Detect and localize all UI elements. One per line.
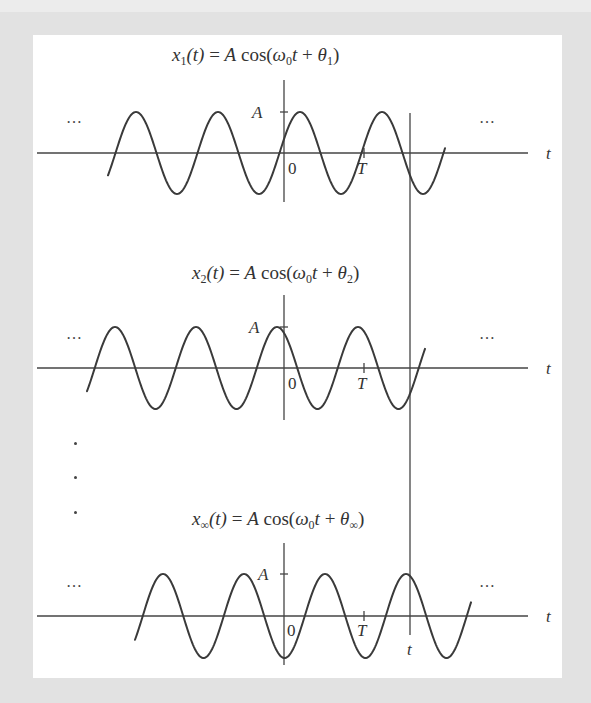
title-omega: ω bbox=[293, 262, 306, 283]
period-label-3: T bbox=[357, 622, 366, 639]
title-close: ) bbox=[333, 44, 339, 65]
title-amp: A bbox=[247, 508, 259, 529]
ellipsis-right-1: … bbox=[479, 110, 496, 126]
title-eq: = bbox=[227, 508, 247, 529]
vertical-ellipsis-dot bbox=[74, 476, 77, 479]
ellipsis-right-2: … bbox=[479, 326, 496, 342]
title-theta: θ bbox=[338, 262, 347, 283]
origin-label-2: 0 bbox=[288, 375, 297, 392]
title-amp: A bbox=[245, 262, 257, 283]
title-plus: + bbox=[317, 262, 337, 283]
title-x1: x1(t) = A cos(ω0t + θ1) bbox=[172, 44, 339, 66]
origin-label-1: 0 bbox=[288, 160, 297, 177]
title-x2: x2(t) = A cos(ω0t + θ2) bbox=[192, 262, 359, 284]
amplitude-label-1: A bbox=[252, 104, 262, 121]
title-omega: ω bbox=[295, 508, 308, 529]
title-arg: (t) bbox=[209, 508, 227, 529]
period-label-1: T bbox=[357, 160, 366, 177]
title-arg: (t) bbox=[186, 44, 204, 65]
ellipsis-left-1: … bbox=[66, 110, 83, 126]
title-func: cos( bbox=[236, 44, 272, 65]
ellipsis-left-3: … bbox=[66, 574, 83, 590]
ellipsis-right-3: … bbox=[479, 574, 496, 590]
title-amp: A bbox=[225, 44, 237, 65]
title-arg: (t) bbox=[206, 262, 224, 283]
vertical-ellipsis-dot bbox=[74, 511, 77, 514]
ellipsis-left-2: … bbox=[66, 326, 83, 342]
amplitude-label-3: A bbox=[258, 566, 268, 583]
axis-label-2: t bbox=[546, 360, 551, 377]
title-func: cos( bbox=[256, 262, 292, 283]
title-theta-sub: ∞ bbox=[349, 518, 358, 532]
title-eq: = bbox=[224, 262, 244, 283]
title-x-infinity: x∞(t) = A cos(ω0t + θ∞) bbox=[192, 508, 364, 530]
period-label-2: T bbox=[357, 375, 366, 392]
title-plus: + bbox=[297, 44, 317, 65]
vertical-ellipsis-dot bbox=[74, 442, 77, 445]
axis-label-1: t bbox=[546, 145, 551, 162]
title-omega: ω bbox=[273, 44, 286, 65]
title-theta: θ bbox=[318, 44, 327, 65]
amplitude-label-2: A bbox=[249, 319, 259, 336]
sample-time-label: t bbox=[407, 641, 412, 658]
title-func: cos( bbox=[259, 508, 295, 529]
axis-label-3: t bbox=[546, 608, 551, 625]
origin-label-3: 0 bbox=[287, 622, 296, 639]
title-eq: = bbox=[204, 44, 224, 65]
title-sub: ∞ bbox=[200, 518, 209, 532]
waveform-diagram bbox=[0, 0, 591, 703]
title-close: ) bbox=[358, 508, 364, 529]
title-close: ) bbox=[353, 262, 359, 283]
title-plus: + bbox=[320, 508, 340, 529]
